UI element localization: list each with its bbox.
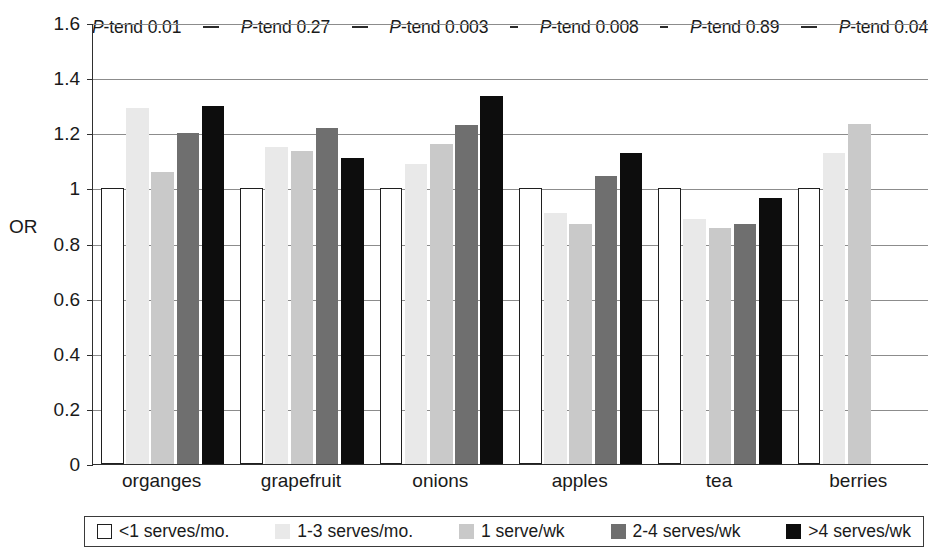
chart-legend: <1 serves/mo.1-3 serves/mo.1 serve/wk2-4… bbox=[84, 516, 924, 547]
bar-apples-series-1 bbox=[544, 213, 567, 464]
legend-item-0[interactable]: <1 serves/mo. bbox=[97, 521, 229, 542]
y-axis-tick-label: 1.2 bbox=[22, 123, 80, 145]
bar-apples-series-0 bbox=[519, 188, 542, 464]
light-gray-square-icon bbox=[459, 524, 474, 539]
bar-tea-series-3 bbox=[734, 224, 757, 464]
bar-tea-series-1 bbox=[683, 219, 706, 464]
bar-onions-series-0 bbox=[380, 188, 403, 464]
bar-organges-series-2 bbox=[151, 172, 174, 464]
x-axis-label-organges: organges bbox=[122, 470, 201, 492]
y-axis-tick-mark bbox=[87, 465, 93, 466]
bar-onions-series-3 bbox=[455, 125, 478, 464]
legend-item-2[interactable]: 1 serve/wk bbox=[459, 521, 565, 542]
bar-apples-series-2 bbox=[569, 224, 592, 464]
very-light-gray-square-icon bbox=[275, 524, 290, 539]
bar-organges-series-3 bbox=[177, 133, 200, 464]
legend-label: 1 serve/wk bbox=[481, 521, 565, 542]
y-axis-tick-label: 1 bbox=[22, 178, 80, 200]
bars-layer bbox=[93, 24, 928, 464]
x-axis-label-grapefruit: grapefruit bbox=[261, 470, 341, 492]
legend-item-1[interactable]: 1-3 serves/mo. bbox=[275, 521, 413, 542]
legend-item-4[interactable]: >4 serves/wk bbox=[786, 521, 911, 542]
x-axis-category-labels: organgesgrapefruitonionsapplesteaberries bbox=[92, 470, 928, 498]
y-axis-tick-label: 0.2 bbox=[22, 399, 80, 421]
bar-organges-series-1 bbox=[126, 108, 149, 464]
black-square-icon bbox=[786, 524, 801, 539]
bar-berries-series-0 bbox=[798, 188, 821, 464]
bar-berries-series-1 bbox=[823, 153, 846, 464]
bar-group-onions bbox=[372, 24, 511, 464]
bar-onions-series-4 bbox=[480, 96, 503, 464]
y-axis-tick-label: 0 bbox=[22, 454, 80, 476]
white-square-outline-icon bbox=[97, 524, 112, 539]
x-axis-label-apples: apples bbox=[552, 470, 608, 492]
bar-grapefruit-series-4 bbox=[341, 158, 364, 464]
y-axis-tick-label: 0.6 bbox=[22, 289, 80, 311]
legend-label: 1-3 serves/mo. bbox=[297, 521, 413, 542]
y-axis-tick-label: 0.8 bbox=[22, 234, 80, 256]
x-axis-label-berries: berries bbox=[829, 470, 887, 492]
bar-organges-series-0 bbox=[101, 188, 124, 464]
x-axis-label-tea: tea bbox=[706, 470, 732, 492]
bar-group-organges bbox=[93, 24, 232, 464]
bar-organges-series-4 bbox=[202, 106, 225, 464]
bar-group-apples bbox=[511, 24, 650, 464]
legend-label: >4 serves/wk bbox=[808, 521, 911, 542]
bar-tea-series-4 bbox=[759, 198, 782, 464]
bar-grapefruit-series-2 bbox=[291, 151, 314, 464]
legend-label: 2-4 serves/wk bbox=[633, 521, 741, 542]
bar-onions-series-2 bbox=[430, 144, 453, 464]
plot-area bbox=[92, 24, 928, 465]
bar-group-tea bbox=[650, 24, 789, 464]
bar-apples-series-3 bbox=[595, 176, 618, 464]
x-axis-label-onions: onions bbox=[412, 470, 468, 492]
y-axis-tick-label: 1.6 bbox=[22, 13, 80, 35]
y-axis-tick-label: 0.4 bbox=[22, 344, 80, 366]
bar-grapefruit-series-1 bbox=[265, 147, 288, 464]
bar-onions-series-1 bbox=[405, 164, 428, 464]
legend-item-3[interactable]: 2-4 serves/wk bbox=[611, 521, 741, 542]
bar-group-grapefruit bbox=[232, 24, 371, 464]
bar-tea-series-2 bbox=[709, 228, 732, 464]
dark-gray-square-icon bbox=[611, 524, 626, 539]
bar-grapefruit-series-0 bbox=[240, 188, 263, 464]
legend-label: <1 serves/mo. bbox=[119, 521, 229, 542]
bar-apples-series-4 bbox=[620, 153, 643, 464]
y-axis-tick-label: 1.4 bbox=[22, 68, 80, 90]
bar-grapefruit-series-3 bbox=[316, 128, 339, 464]
bar-tea-series-0 bbox=[658, 188, 681, 464]
bar-group-berries bbox=[790, 24, 929, 464]
bar-berries-series-2 bbox=[848, 124, 871, 464]
